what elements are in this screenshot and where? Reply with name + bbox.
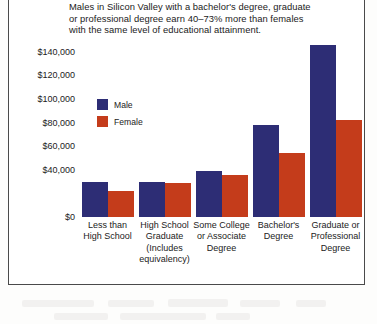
scan-artifact — [54, 313, 108, 320]
scan-artifact — [240, 300, 280, 307]
y-axis-tick-label: $120,000 — [17, 70, 75, 80]
legend-label: Male — [114, 100, 133, 110]
scan-artifact — [168, 299, 228, 307]
bar-group — [310, 40, 362, 217]
legend-swatch-male — [97, 99, 108, 110]
bar-female — [108, 191, 134, 217]
scan-artifact — [108, 300, 154, 307]
bar-male — [310, 45, 336, 217]
chart-page: Males in Silicon Valley with a bachelor'… — [0, 0, 377, 324]
x-axis-category-label: Less thanHigh School — [77, 220, 139, 243]
bar-male — [253, 125, 279, 217]
y-axis: $0$40,000$60,000$80,000$100,000$120,000$… — [15, 40, 75, 217]
legend-item: Female — [97, 116, 177, 127]
legend-label: Female — [114, 117, 143, 127]
x-axis-category-label: Some Collegeor AssociateDegree — [191, 220, 253, 254]
y-axis-tick-label: $100,000 — [17, 94, 75, 104]
figure-border: Males in Silicon Valley with a bachelor'… — [8, 0, 365, 285]
bar-female — [222, 175, 248, 217]
y-axis-tick-label: $80,000 — [17, 118, 75, 128]
bar-group — [253, 40, 305, 217]
y-axis-tick-label: $0 — [17, 212, 75, 222]
x-axis-category-label: Graduate orProfessionalDegree — [305, 220, 367, 254]
bar-female — [336, 120, 362, 217]
y-axis-tick-label: $40,000 — [17, 165, 75, 175]
chart-title: Males in Silicon Valley with a bachelor'… — [69, 1, 319, 36]
chart-legend: MaleFemale — [97, 99, 177, 133]
legend-swatch-female — [97, 116, 108, 127]
x-axis-category-label: Bachelor'sDegree — [248, 220, 310, 243]
scan-artifact — [296, 300, 326, 307]
y-axis-tick-label: $60,000 — [17, 141, 75, 151]
scan-artifact — [22, 300, 94, 307]
x-axis-category-label: High SchoolGraduate(Includesequivalency) — [134, 220, 196, 266]
y-axis-tick-label: $140,000 — [17, 47, 75, 57]
bar-male — [139, 182, 165, 217]
scan-artifact — [120, 313, 206, 320]
bar-group — [196, 40, 248, 217]
bar-female — [279, 153, 305, 217]
bar-male — [82, 182, 108, 217]
bar-female — [165, 183, 191, 217]
bar-male — [196, 171, 222, 217]
scan-artifact — [216, 313, 250, 320]
legend-item: Male — [97, 99, 177, 110]
x-axis: Less thanHigh SchoolHigh SchoolGraduate(… — [79, 220, 364, 282]
